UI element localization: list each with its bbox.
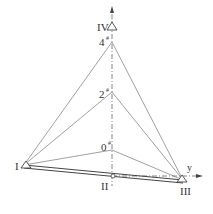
label-I: I	[15, 160, 19, 172]
station-I-triangle	[21, 161, 31, 168]
diagram-canvas: IV 4 # 2 # 0 # I II III y	[0, 0, 213, 214]
label-II: II	[101, 180, 109, 192]
label-4-sup: #	[106, 35, 109, 41]
label-0-sup: #	[108, 140, 111, 146]
vertical-arrow-head	[110, 6, 114, 13]
label-y-axis: y	[187, 162, 192, 173]
label-III: III	[180, 185, 191, 197]
line-III-2	[112, 92, 183, 180]
label-2-sup: #	[106, 87, 109, 93]
line-I-0	[24, 150, 112, 165]
label-0: 0	[101, 141, 107, 153]
line-I-4	[24, 42, 112, 165]
label-2: 2	[99, 88, 105, 100]
baseline-outer	[24, 165, 183, 180]
y-axis-arrow-head	[196, 174, 203, 178]
network-diagram: IV 4 # 2 # 0 # I II III y	[0, 0, 213, 214]
line-III-4	[112, 42, 183, 180]
label-IV: IV	[97, 21, 109, 33]
line-III-0	[112, 150, 183, 180]
station-II-marker	[111, 174, 115, 178]
label-4: 4	[99, 36, 105, 48]
